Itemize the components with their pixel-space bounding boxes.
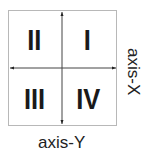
- quadrant-iii-label: III: [24, 84, 45, 114]
- x-axis-label: axis-X: [125, 48, 142, 95]
- quadrant-ii-label: II: [27, 25, 41, 55]
- quadrant-iv-label: IV: [76, 84, 100, 114]
- y-axis-label: axis-Y: [38, 134, 85, 151]
- quadrant-i-label: I: [84, 25, 91, 55]
